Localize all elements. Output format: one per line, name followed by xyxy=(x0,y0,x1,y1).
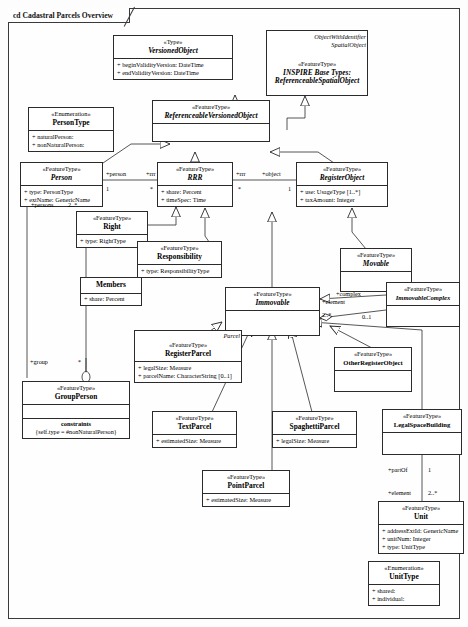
attribute: + type: PersonType xyxy=(24,188,99,196)
attribute: + taxAmount: Integer xyxy=(300,196,384,204)
class-unit[interactable]: «FeatureType» Unit + addressExtId: Gener… xyxy=(378,501,464,554)
class-name: RRR xyxy=(160,174,230,183)
label-rrr-mult-right: * xyxy=(238,185,241,192)
class-header: «Enumeration» PersonType xyxy=(29,108,113,130)
class-name: OtherRegisterObject xyxy=(337,359,409,368)
class-stereotype: «FeatureType» xyxy=(385,412,459,421)
class-person[interactable]: «FeatureType» Person + type: PersonType … xyxy=(20,162,103,207)
class-name: Members xyxy=(83,281,139,290)
class-name: UnitType xyxy=(371,573,437,582)
class-name: Right xyxy=(79,223,145,232)
constraints-title: constraints xyxy=(25,420,127,428)
inspire-base-caption: ObjectWithIdentifier SpatialObject xyxy=(268,33,366,48)
class-versioned-object[interactable]: «Type» VersionedObject + beginValidityVe… xyxy=(113,35,233,80)
class-members[interactable]: Members + share: Percent xyxy=(80,277,142,306)
attributes-compartment: + share: Percent + timeSpec: Time xyxy=(158,186,232,206)
attributes-compartment xyxy=(383,433,461,454)
attributes-compartment: + legalSize: Measure xyxy=(273,435,356,447)
class-name: Person xyxy=(23,174,100,183)
attribute: + type: ResponsibilityType xyxy=(141,267,218,275)
attributes-compartment: + addressExtId: GenericName + unitNum: I… xyxy=(379,525,463,553)
uml-class-diagram: cd Cadastral Parcels Overview xyxy=(0,0,468,627)
label-object-role: +object xyxy=(262,170,281,177)
class-responsibility[interactable]: «FeatureType» Responsibility + type: Res… xyxy=(137,241,222,278)
class-legal-space-building[interactable]: «FeatureType» LegalSpaceBuilding xyxy=(382,409,462,455)
class-header: «FeatureType» LegalSpaceBuilding xyxy=(383,410,461,432)
attributes-compartment: + estimatedSize: Measure xyxy=(203,494,289,506)
class-group-person[interactable]: «FeatureType» GroupPerson constraints {s… xyxy=(22,381,130,439)
label-group-role: +group xyxy=(30,358,48,365)
class-name: SpaghettiParcel xyxy=(275,423,354,432)
class-header: «FeatureType» PointParcel xyxy=(203,471,289,493)
label-persons-role: +persons xyxy=(31,201,53,208)
attribute: + estimatedSize: Measure xyxy=(206,496,286,504)
attributes-compartment xyxy=(387,306,459,326)
attributes-compartment: + shared: + individual: xyxy=(369,585,439,605)
class-rrr[interactable]: «FeatureType» RRR + share: Percent + tim… xyxy=(157,162,233,207)
attribute: + beginValidityVersion: DateTime xyxy=(117,61,229,69)
attributes-compartment xyxy=(23,405,129,418)
class-spaghetti-parcel[interactable]: «FeatureType» SpaghettiParcel + legalSiz… xyxy=(272,411,357,448)
class-text-parcel[interactable]: «FeatureType» TextParcel + estimatedSize… xyxy=(152,411,237,448)
class-header: «FeatureType» Right xyxy=(77,212,147,234)
label-element-mult: 2..* xyxy=(322,311,331,318)
class-header: «FeatureType» INSPIRE Base Types: Refere… xyxy=(267,50,367,89)
attributes-compartment: + type: ResponsibilityType xyxy=(138,265,221,277)
class-point-parcel[interactable]: «FeatureType» PointParcel + estimatedSiz… xyxy=(202,470,290,507)
caption-line-1: Parcel xyxy=(134,332,240,340)
class-register-object[interactable]: «FeatureType» RegisterObject + use: Usag… xyxy=(296,162,388,207)
class-header: «Enumeration» UnitType xyxy=(369,562,439,584)
class-header: «FeatureType» Movable xyxy=(341,249,411,271)
label-group-mult: * xyxy=(78,358,81,365)
class-immovable-complex[interactable]: «FeatureType» ImmovableComplex xyxy=(386,282,460,327)
class-person-type-enum[interactable]: «Enumeration» PersonType + naturalPerson… xyxy=(28,107,114,152)
attribute: + naturalPerson: xyxy=(32,133,110,141)
attribute: + unitNum: Integer xyxy=(382,535,460,543)
class-other-register-object[interactable]: «FeatureType» OtherRegisterObject xyxy=(334,347,412,392)
label-element-role: +element xyxy=(322,298,345,305)
class-name: ReferenceableVersionedObject xyxy=(155,112,267,121)
class-name: PointParcel xyxy=(205,482,287,491)
class-name: Movable xyxy=(343,260,409,269)
label-unit-element-mult: 2..* xyxy=(428,489,437,496)
class-name: Unit xyxy=(381,513,461,522)
attribute: + addressExtId: GenericName xyxy=(382,527,460,535)
attribute: + share: Percent xyxy=(161,188,229,196)
register-parcel-caption: Parcel xyxy=(134,332,240,340)
attribute: + legalSize: Measure xyxy=(138,364,238,372)
label-person-mult: 1 xyxy=(106,185,109,192)
class-header: «FeatureType» Person xyxy=(21,163,102,185)
label-person-role: +person xyxy=(106,170,126,177)
class-name: LegalSpaceBuilding xyxy=(385,421,459,430)
constraints-compartment: constraints {self.type = #nonNaturalPers… xyxy=(23,419,129,438)
attributes-compartment xyxy=(335,371,411,391)
class-header: «FeatureType» Responsibility xyxy=(138,242,221,264)
class-header: «FeatureType» TextParcel xyxy=(153,412,236,434)
class-header: Members xyxy=(81,278,141,293)
label-object-mult: 1 xyxy=(288,185,291,192)
class-header: «FeatureType» SpaghettiParcel xyxy=(273,412,356,434)
class-name: Immovable xyxy=(228,299,317,308)
attribute: + legalSize: Measure xyxy=(276,437,353,445)
diagram-title: cd Cadastral Parcels Overview xyxy=(8,8,130,23)
attribute: + endValidityVersion: DateTime xyxy=(117,69,229,77)
class-unit-type-enum[interactable]: «Enumeration» UnitType + shared: + indiv… xyxy=(368,561,440,606)
attribute: + shared: xyxy=(372,587,436,595)
attributes-compartment: + beginValidityVersion: DateTime + endVa… xyxy=(114,59,232,79)
attribute: + use: UsageType [1..*] xyxy=(300,188,384,196)
class-referenceable-versioned-object[interactable]: «FeatureType» ReferenceableVersionedObje… xyxy=(152,100,270,142)
class-header: «FeatureType» RegisterObject xyxy=(297,163,387,185)
class-header: «Type» VersionedObject xyxy=(114,36,232,58)
attribute: + individual: xyxy=(372,595,436,603)
attributes-compartment xyxy=(153,124,269,141)
class-name: TextParcel xyxy=(155,423,234,432)
class-header: «FeatureType» GroupPerson xyxy=(23,382,129,404)
class-immovable[interactable]: «FeatureType» Immovable xyxy=(225,287,320,336)
class-name: RegisterParcel xyxy=(137,350,239,359)
class-name: VersionedObject xyxy=(116,47,230,56)
attribute: + nonNaturalPerson: xyxy=(32,141,110,149)
caption-line-2: SpatialObject xyxy=(268,41,366,49)
constraints-body: {self.type = #nonNaturalPerson} xyxy=(25,428,127,436)
class-name: ImmovableComplex xyxy=(389,294,457,303)
class-header: «FeatureType» OtherRegisterObject xyxy=(335,348,411,370)
